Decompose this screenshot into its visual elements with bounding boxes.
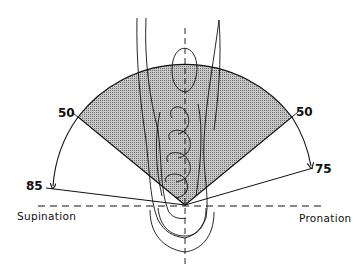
rotation-diagram: 50 50 85 75 Supination Pronation [0,0,357,271]
label-supination-max: 85 [26,179,43,193]
label-pronation-max: 75 [315,162,332,176]
label-supination: Supination [17,210,76,222]
label-pronation-functional: 50 [296,105,313,119]
pronation-arc-arrow [292,117,311,166]
supination-arc-arrow [53,117,78,186]
label-pronation: Pronation [299,212,352,224]
label-supination-functional: 50 [58,106,75,120]
